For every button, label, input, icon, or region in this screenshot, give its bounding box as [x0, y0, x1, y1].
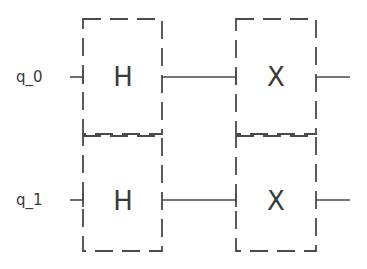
quantum-circuit-diagram: q_0 q_1 H H X X: [0, 0, 367, 269]
gate-label-h-q0: H: [113, 62, 133, 92]
gate-label-h-q1: H: [113, 186, 133, 216]
gate-label-x-q1: X: [267, 186, 285, 216]
qubit-label-q1: q_1: [16, 191, 43, 210]
qubit-label-q0: q_0: [16, 68, 43, 87]
gate-label-x-q0: X: [267, 62, 285, 92]
